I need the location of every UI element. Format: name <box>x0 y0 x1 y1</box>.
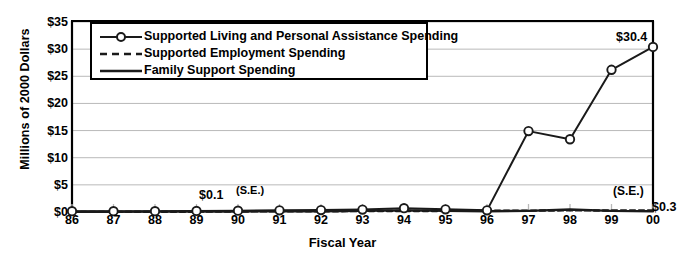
x-tick-label: 88 <box>140 214 170 227</box>
legend-label-supported-employment: Supported Employment Spending <box>144 47 345 60</box>
annotation-se-1990-label: (S.E.) <box>236 185 264 196</box>
x-tick-label: 93 <box>348 214 378 227</box>
x-tick-label: 00 <box>638 214 668 227</box>
annotation-slpa-2000-value: $30.4 <box>616 31 647 44</box>
legend-swatch-marker-line <box>98 29 144 45</box>
legend-item-supported-living: Supported Living and Personal Assistance… <box>98 28 420 45</box>
x-tick-label: 90 <box>223 214 253 227</box>
x-tick-label: 91 <box>265 214 295 227</box>
x-tick-label: 97 <box>514 214 544 227</box>
x-tick-label: 86 <box>57 214 87 227</box>
legend-swatch-dashed <box>98 46 144 62</box>
x-tick-label: 94 <box>389 214 419 227</box>
x-axis-title: Fiscal Year <box>0 235 685 250</box>
legend-item-family-support: Family Support Spending <box>98 62 420 79</box>
x-tick-label: 89 <box>182 214 212 227</box>
annotation-se-2000-label: (S.E.) <box>613 185 644 197</box>
legend-label-supported-living: Supported Living and Personal Assistance… <box>144 30 458 43</box>
x-tick-label: 92 <box>306 214 336 227</box>
legend-item-supported-employment: Supported Employment Spending <box>98 45 420 62</box>
legend-label-family-support: Family Support Spending <box>144 64 295 77</box>
x-tick-label: 98 <box>555 214 585 227</box>
line-chart: Millions of 2000 Dollars $0$5$10$15$20$2… <box>0 0 685 261</box>
annotation-se-2000-value: $0.3 <box>652 201 676 214</box>
chart-legend: Supported Living and Personal Assistance… <box>90 22 428 80</box>
legend-swatch-solid <box>98 63 144 79</box>
x-tick-label: 95 <box>431 214 461 227</box>
annotation-se-1990-value: $0.1 <box>199 189 223 202</box>
x-tick-label: 99 <box>597 214 627 227</box>
x-tick-label: 87 <box>99 214 129 227</box>
x-tick-label: 96 <box>472 214 502 227</box>
x-axis-tick-labels: 868788899091929394959697989900 <box>0 214 685 234</box>
